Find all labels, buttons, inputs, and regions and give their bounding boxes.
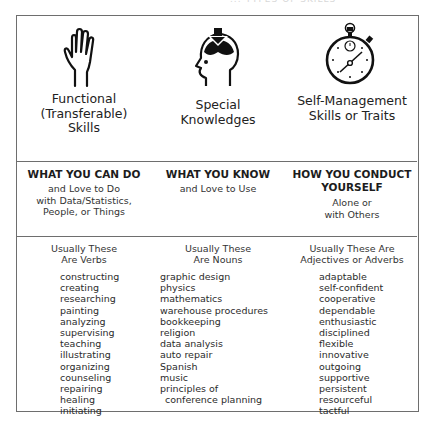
kind-line: Adjectives or Adverbs bbox=[285, 254, 419, 265]
list-item: disciplined bbox=[319, 327, 419, 338]
list-item: data analysis bbox=[160, 338, 285, 349]
column-title: Special Knowledges bbox=[151, 98, 285, 127]
list-item: initiating bbox=[60, 405, 151, 416]
title-line: (Transferable) bbox=[17, 107, 151, 122]
column-heading: HOW YOU CONDUCT YOURSELF bbox=[285, 168, 419, 194]
column-special-knowledges: Special Knowledges bbox=[151, 16, 285, 127]
divider-top bbox=[17, 161, 417, 162]
verbs-list: constructing creating researching painti… bbox=[60, 271, 151, 417]
column-title: Functional (Transferable) Skills bbox=[17, 92, 151, 136]
column-subtext: and Love to Use bbox=[151, 183, 285, 195]
list-item: cooperative bbox=[319, 293, 419, 304]
list-item: physics bbox=[160, 282, 285, 293]
title-line: Self-Management bbox=[285, 94, 419, 109]
nouns-block: Usually These Are Nouns graphic design p… bbox=[151, 243, 285, 405]
list-item: self-confident bbox=[319, 282, 419, 293]
title-line: Skills bbox=[17, 121, 151, 136]
what-you-can-do-block: WHAT YOU CAN DO and Love to Do with Data… bbox=[17, 168, 151, 218]
list-item: flexible bbox=[319, 338, 419, 349]
raised-hand-icon bbox=[61, 26, 107, 88]
list-item: outgoing bbox=[319, 361, 419, 372]
adjectives-block: Usually These Are Adjectives or Adverbs … bbox=[285, 243, 419, 417]
how-you-conduct-block: HOW YOU CONDUCT YOURSELF Alone or with O… bbox=[285, 168, 419, 220]
subtext-line: Alone or bbox=[285, 197, 419, 209]
list-item: bookkeeping bbox=[160, 316, 285, 327]
list-item: researching bbox=[60, 293, 151, 304]
list-item: innovative bbox=[319, 349, 419, 360]
list-item: supportive bbox=[319, 372, 419, 383]
list-item: painting bbox=[60, 305, 151, 316]
list-item: analyzing bbox=[60, 316, 151, 327]
skills-table: Functional (Transferable) Skills Special… bbox=[16, 15, 419, 412]
list-item: conference planning bbox=[160, 394, 285, 405]
list-item: supervising bbox=[60, 327, 151, 338]
list-item: mathematics bbox=[160, 293, 285, 304]
heading-line: HOW YOU CONDUCT bbox=[285, 168, 419, 181]
head-knowledge-download-icon bbox=[192, 26, 244, 90]
kind-line: Usually These Are bbox=[285, 243, 419, 254]
list-item: counseling bbox=[60, 372, 151, 383]
page-top-title-fragment: ... TYPES OF SKILLS bbox=[230, 0, 430, 4]
list-item: persistent bbox=[319, 383, 419, 394]
column-subtext: and Love to Do with Data/Statistics, Peo… bbox=[17, 183, 151, 218]
list-item: creating bbox=[60, 282, 151, 293]
column-heading: WHAT YOU KNOW bbox=[151, 168, 285, 181]
what-you-know-block: WHAT YOU KNOW and Love to Use bbox=[151, 168, 285, 195]
list-item: teaching bbox=[60, 338, 151, 349]
list-item: principles of bbox=[160, 383, 285, 394]
column-title: Self-Management Skills or Traits bbox=[285, 94, 419, 123]
column-subtext: Alone or with Others bbox=[285, 197, 419, 220]
kind-line: Are Nouns bbox=[151, 254, 285, 265]
list-item: healing bbox=[60, 394, 151, 405]
title-line: Knowledges bbox=[151, 113, 285, 128]
subtext-line: and Love to Use bbox=[151, 183, 285, 195]
title-line: Skills or Traits bbox=[285, 109, 419, 124]
title-line: Functional bbox=[17, 92, 151, 107]
title-line: Special bbox=[151, 98, 285, 113]
list-item: Spanish bbox=[160, 361, 285, 372]
subtext-line: and Love to Do bbox=[17, 183, 151, 195]
word-type-label: Usually These Are Nouns bbox=[151, 243, 285, 265]
list-item: adaptable bbox=[319, 271, 419, 282]
list-item: constructing bbox=[60, 271, 151, 282]
stopwatch-icon bbox=[322, 22, 382, 88]
subtext-line: People, or Things bbox=[17, 206, 151, 218]
column-functional-skills: Functional (Transferable) Skills bbox=[17, 16, 151, 136]
kind-line: Usually These bbox=[17, 243, 151, 254]
subtext-line: with Data/Statistics, bbox=[17, 195, 151, 207]
heading-line: YOURSELF bbox=[285, 181, 419, 194]
word-type-label: Usually These Are Verbs bbox=[17, 243, 151, 265]
list-item: illustrating bbox=[60, 349, 151, 360]
list-item: tactful bbox=[319, 405, 419, 416]
adjectives-list: adaptable self-confident cooperative dep… bbox=[319, 271, 419, 417]
nouns-list: graphic design physics mathematics wareh… bbox=[160, 271, 285, 405]
list-item: graphic design bbox=[160, 271, 285, 282]
column-self-management: Self-Management Skills or Traits bbox=[285, 16, 419, 123]
kind-line: Usually These bbox=[151, 243, 285, 254]
kind-line: Are Verbs bbox=[17, 254, 151, 265]
list-item: auto repair bbox=[160, 349, 285, 360]
list-item: warehouse procedures bbox=[160, 305, 285, 316]
list-item: dependable bbox=[319, 305, 419, 316]
list-item: organizing bbox=[60, 361, 151, 372]
word-type-label: Usually These Are Adjectives or Adverbs bbox=[285, 243, 419, 265]
list-item: music bbox=[160, 372, 285, 383]
verbs-block: Usually These Are Verbs constructing cre… bbox=[17, 243, 151, 417]
list-item: resourceful bbox=[319, 394, 419, 405]
column-heading: WHAT YOU CAN DO bbox=[17, 168, 151, 181]
divider-bottom bbox=[17, 236, 417, 237]
list-item: enthusiastic bbox=[319, 316, 419, 327]
subtext-line: with Others bbox=[285, 209, 419, 221]
list-item: repairing bbox=[60, 383, 151, 394]
list-item: religion bbox=[160, 327, 285, 338]
